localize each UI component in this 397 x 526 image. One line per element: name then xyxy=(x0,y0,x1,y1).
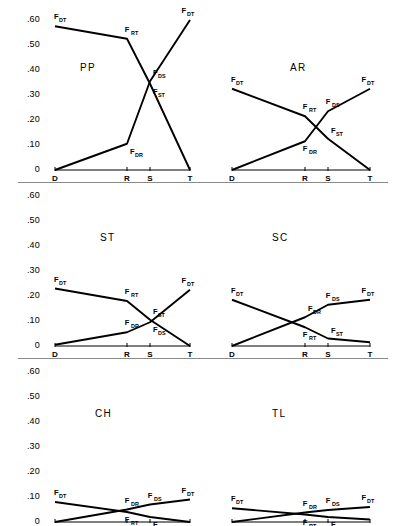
series-line xyxy=(55,20,190,170)
series-point-label: FDR xyxy=(130,147,143,158)
series-label-subscript: DS xyxy=(158,330,166,336)
y-axis-tick-label: .30 xyxy=(6,266,40,275)
series-label-subscript: DT xyxy=(367,291,375,297)
series-point-label: FRT xyxy=(125,25,139,36)
y-axis-tick-label: .20 xyxy=(6,467,40,476)
series-label-letter: F xyxy=(181,6,186,15)
series-point-label: FDT xyxy=(231,494,244,505)
series-point-label: FRT xyxy=(303,330,317,341)
series-label-subscript: DR xyxy=(131,501,139,507)
series-point-label: FST xyxy=(153,87,166,98)
series-point-label: FRT xyxy=(125,515,139,526)
y-axis-tick-label: .40 xyxy=(6,417,40,426)
series-label-subscript: DT xyxy=(59,280,67,286)
series-label-letter: F xyxy=(54,488,59,497)
series-label-letter: F xyxy=(181,486,186,495)
y-axis-tick-label: .40 xyxy=(6,65,40,74)
series-point-label: FRT xyxy=(125,287,139,298)
series-line xyxy=(55,500,190,523)
y-axis-tick-label: .30 xyxy=(6,90,40,99)
series-line xyxy=(232,89,370,170)
series-label-subscript: ST xyxy=(158,92,166,98)
series-label-letter: F xyxy=(231,75,236,84)
series-label-subscript: DS xyxy=(332,501,340,507)
series-line xyxy=(55,26,190,170)
series-label-subscript: DT xyxy=(367,498,375,504)
panel-title-tl: TL xyxy=(272,408,286,419)
series-label-subscript: DR xyxy=(131,323,139,329)
row-separator xyxy=(18,182,388,183)
series-label-letter: F xyxy=(125,25,130,34)
series-point-label: FDT xyxy=(181,6,194,17)
series-label-letter: F xyxy=(303,102,308,111)
y-axis-tick-label: .40 xyxy=(6,241,40,250)
series-label-letter: F xyxy=(125,496,130,505)
panel-title-ch: CH xyxy=(95,408,112,419)
series-label-letter: F xyxy=(303,518,308,526)
series-label-subscript: RT xyxy=(131,292,139,298)
series-label-subscript: RT xyxy=(309,107,317,113)
y-axis-tick-label: .60 xyxy=(6,191,40,200)
series-label-letter: F xyxy=(153,520,158,526)
series-label-letter: F xyxy=(331,326,336,335)
series-label-subscript: ST xyxy=(336,131,344,137)
series-label-letter: F xyxy=(130,147,135,156)
panel-title-pp: PP xyxy=(80,62,96,73)
series-label-letter: F xyxy=(153,68,158,77)
series-point-label: FDS xyxy=(148,491,162,502)
series-label-letter: F xyxy=(326,97,331,106)
panel-title-st: ST xyxy=(100,232,116,243)
series-label-subscript: DT xyxy=(236,291,244,297)
series-label-letter: F xyxy=(54,12,59,21)
series-label-letter: F xyxy=(181,276,186,285)
series-point-label: FDT xyxy=(54,488,67,499)
panel-title-sc: SC xyxy=(272,232,289,243)
series-label-subscript: ST xyxy=(336,331,344,337)
series-point-label: FDT xyxy=(361,286,374,297)
y-axis-tick-label: .20 xyxy=(6,115,40,124)
series-label-subscript: RT xyxy=(309,523,317,526)
series-label-subscript: DT xyxy=(59,493,67,499)
series-point-label: FDT xyxy=(181,276,194,287)
series-point-label: FDS xyxy=(326,496,340,507)
series-point-label: FDS xyxy=(153,325,166,336)
y-axis-tick-label: .10 xyxy=(6,316,40,325)
series-label-subscript: DS xyxy=(154,496,162,502)
series-label-letter: F xyxy=(361,493,366,502)
series-label-letter: F xyxy=(303,499,308,508)
series-line xyxy=(232,89,370,170)
series-label-subscript: DT xyxy=(236,499,244,505)
series-label-letter: F xyxy=(308,304,313,313)
series-label-letter: F xyxy=(153,87,158,96)
series-label-letter: F xyxy=(54,275,59,284)
panel-title-ar: AR xyxy=(290,62,307,73)
series-label-subscript: RT xyxy=(309,335,317,341)
y-axis-tick-label: .10 xyxy=(6,140,40,149)
series-label-subscript: DT xyxy=(59,17,67,23)
series-point-label: FDS xyxy=(153,68,166,79)
series-label-subscript: DT xyxy=(187,11,195,17)
series-point-label: FST xyxy=(331,126,344,137)
series-label-letter: F xyxy=(331,126,336,135)
series-label-letter: F xyxy=(326,496,331,505)
series-point-label: FDR xyxy=(125,318,139,329)
y-axis-tick-label: .20 xyxy=(6,291,40,300)
series-label-subscript: DT xyxy=(367,80,375,86)
y-axis-tick-label: .30 xyxy=(6,442,40,451)
series-line xyxy=(232,300,370,346)
series-label-subscript: ST xyxy=(158,312,166,318)
row-separator xyxy=(18,358,388,359)
y-axis-tick-label: .50 xyxy=(6,216,40,225)
y-axis-tick-label: 0 xyxy=(6,517,40,526)
y-axis-tick-label: 0 xyxy=(6,341,40,350)
series-point-label: FST xyxy=(153,307,166,318)
series-point-label: FDR xyxy=(125,496,139,507)
series-point-label: FST xyxy=(153,520,166,526)
series-point-label: FDT xyxy=(231,75,244,86)
series-label-letter: F xyxy=(125,287,130,296)
series-label-letter: F xyxy=(331,520,336,526)
series-label-subscript: DT xyxy=(187,491,195,497)
